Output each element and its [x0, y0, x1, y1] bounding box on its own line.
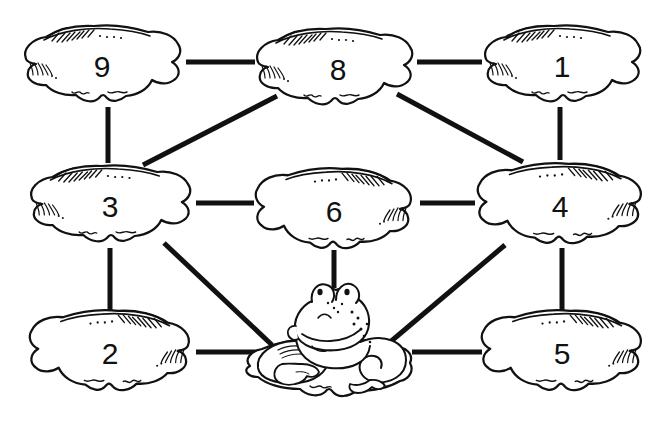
lilypad-1[interactable] [485, 25, 640, 101]
worksheet-canvas: 98136425 [0, 0, 671, 433]
lilypad-graph-svg [0, 0, 671, 433]
lilypad-3[interactable] [31, 165, 190, 241]
lilypad-frog[interactable] [246, 284, 411, 396]
lilypad-5[interactable] [482, 310, 641, 390]
frog-icon [246, 284, 411, 396]
lilypad-4[interactable] [478, 163, 641, 243]
lilypad-layer [25, 25, 641, 396]
edge-pad3-pad8 [143, 96, 277, 165]
lilypad-9[interactable] [25, 25, 180, 101]
lilypad-6[interactable] [256, 168, 411, 248]
lilypad-2[interactable] [30, 310, 189, 390]
lilypad-8[interactable] [257, 28, 412, 104]
edge-pad8-pad4 [397, 94, 523, 162]
